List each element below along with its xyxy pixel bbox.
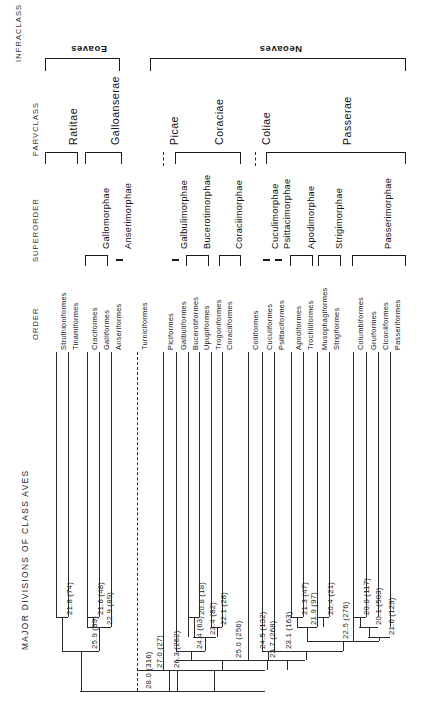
order-branch-turniciformes bbox=[137, 352, 138, 691]
order-label-galliformes: Galliformes bbox=[102, 310, 111, 350]
passerimorphae-node-stem bbox=[379, 637, 380, 641]
order-label-craciformes: Craciformes bbox=[90, 307, 99, 350]
order-label-coliiformes: Coliiformes bbox=[251, 310, 260, 350]
node-value-13: 23.7 (268) bbox=[268, 620, 277, 658]
neoaves-core-node-stem bbox=[222, 660, 223, 670]
node-value-12: 24.5 (132) bbox=[258, 611, 267, 649]
order-branch-anseriformes bbox=[111, 352, 112, 627]
order-label-gruiformes: Gruiformes bbox=[369, 311, 378, 350]
passerae-inner-node-stem bbox=[343, 641, 344, 651]
order-branch-trogoniformes bbox=[211, 352, 212, 627]
turnici-node-stem bbox=[169, 670, 170, 691]
infraclass-bracket-eoaves bbox=[45, 58, 120, 71]
order-label-passeriformes: Passeriformes bbox=[393, 300, 402, 350]
superorder-label-psittacimorphae: Psittacimorphae bbox=[282, 179, 292, 249]
superorder-tick-galbulimorphae bbox=[172, 259, 179, 261]
order-branch-coraciiformes bbox=[222, 352, 223, 627]
neoaves-node-stem bbox=[214, 670, 215, 691]
superorder-label-passerimorphae: Passerimorphae bbox=[383, 178, 393, 249]
order-branch-bucerotiformes bbox=[188, 352, 189, 637]
node-value-18: 22.5 (276) bbox=[341, 601, 350, 639]
column-header-superorder: SUPERORDER bbox=[31, 198, 40, 262]
node-value-21: 21.6 (129) bbox=[387, 597, 396, 635]
coliae-passerae-node-stem bbox=[287, 660, 288, 670]
order-branch-piciformes bbox=[163, 352, 164, 670]
node-value-19: 20.8 (117) bbox=[362, 578, 371, 615]
infraclass-label-neoaves: Neoaves bbox=[259, 44, 302, 55]
order-label-trogoniformes: Trogoniformes bbox=[214, 299, 223, 350]
superorder-label-bucerotimorphae: Bucerotimorphae bbox=[202, 175, 212, 249]
apodimorphae-node-stem bbox=[297, 617, 298, 627]
column-header-order: ORDER bbox=[31, 307, 40, 340]
order-branch-columbiformes bbox=[353, 352, 354, 641]
node-value-11: 25.0 (256) bbox=[234, 620, 243, 658]
galloanserae-node-stem bbox=[99, 627, 100, 651]
phylogenetic-tree-figure: INFRACLASS PARVCLASS SUPERORDER ORDER MA… bbox=[0, 0, 428, 706]
order-label-anseriformes: Anseriformes bbox=[114, 303, 123, 350]
order-label-musophagiformes: Musophagiformes bbox=[320, 288, 329, 351]
cuculi-psittaci-node-stem bbox=[268, 651, 269, 660]
infraclass-bracket-neoaves bbox=[150, 58, 406, 71]
order-branch-galbuliformes bbox=[176, 352, 177, 651]
apodi-musophagi-node-stem bbox=[307, 627, 308, 641]
superorder-bracket-passerimorphae bbox=[352, 255, 406, 266]
node-value-10: 22.1 (28) bbox=[219, 592, 228, 625]
coraciae-node-stem bbox=[205, 637, 206, 651]
parvclass-bracket-galloanserae bbox=[85, 152, 122, 164]
eoaves-node-stem bbox=[81, 651, 82, 691]
superorder-label-galbulimorphae: Galbulimorphae bbox=[179, 180, 189, 249]
order-branch-apodiformes bbox=[291, 352, 292, 617]
picae-node-stem bbox=[177, 670, 178, 691]
order-label-struthioniformes: Struthioniformes bbox=[59, 292, 68, 350]
superorder-bracket-apodimorphae bbox=[290, 255, 313, 266]
parvclass-label-coliae: Coliae bbox=[260, 112, 272, 145]
node-value-17: 20.4 (21) bbox=[326, 582, 335, 615]
node-value-0: 21.8 (74) bbox=[65, 582, 74, 615]
node-value-5: 27.0 (27) bbox=[155, 635, 164, 668]
superorder-label-apodimorphae: Apodimorphae bbox=[306, 186, 316, 249]
order-label-cuculiformes: Cuculiformes bbox=[265, 304, 274, 350]
superorder-label-anserimorphae: Anserimorphae bbox=[123, 183, 133, 249]
node-value-20: 20.1 (503) bbox=[374, 587, 383, 625]
node-value-3: 22.9 (89) bbox=[105, 592, 114, 625]
parvclass-bracket-coraciae bbox=[175, 152, 241, 164]
order-branch-craciformes bbox=[87, 352, 88, 627]
superorder-tick-cuculimorphae bbox=[263, 259, 270, 261]
superorder-bracket-strigimorphae bbox=[318, 255, 341, 266]
ciconii-node-stem bbox=[369, 627, 370, 637]
order-label-upupiformes: Upupiformes bbox=[202, 305, 211, 350]
node-value-7: 24.4 (63) bbox=[195, 616, 204, 649]
infraclass-label-eoaves: Eoaves bbox=[70, 44, 106, 55]
parvclass-bracket-passerae bbox=[266, 152, 406, 164]
superorder-tick-psittacimorphae bbox=[275, 259, 282, 261]
root-node-connector bbox=[80, 691, 265, 692]
parvclass-bracket-picae bbox=[163, 152, 164, 166]
superorder-label-strigimorphae: Strigimorphae bbox=[334, 188, 344, 249]
node-value-16: 21.9 (97) bbox=[309, 592, 318, 625]
order-label-trochiliformes: Trochiliformes bbox=[306, 300, 315, 350]
parvclass-label-coraciae: Coraciae bbox=[213, 99, 225, 145]
node-value-8: 20.8 (18) bbox=[197, 582, 206, 615]
superorder-label-coraciimorphae: Coraciimorphae bbox=[234, 180, 244, 249]
order-branch-psittaciformes bbox=[274, 352, 275, 651]
ratitae-node-stem bbox=[62, 617, 63, 651]
order-label-tinamiformes: Tinamiformes bbox=[71, 303, 80, 351]
order-branch-coliiformes bbox=[248, 352, 249, 660]
parvclass-label-picae: Picae bbox=[168, 116, 180, 145]
order-label-columbiformes: Columbiformes bbox=[356, 297, 365, 350]
order-branch-struthioniformes bbox=[56, 352, 57, 617]
order-branch-tinamiformes bbox=[68, 352, 69, 617]
parvclass-bracket-coliae bbox=[255, 152, 256, 166]
order-branch-strigiformes bbox=[329, 352, 330, 617]
column-header-parvclass: PARVCLASS bbox=[31, 102, 40, 156]
order-label-strigiformes: Strigiformes bbox=[332, 308, 341, 350]
order-label-apodiformes: Apodiformes bbox=[294, 306, 303, 350]
columbi-grui-node-stem bbox=[360, 617, 361, 627]
order-branch-upupiformes bbox=[199, 352, 200, 617]
strigimorphae-node-stem bbox=[323, 617, 324, 627]
parvclass-label-ratitae: Ratitae bbox=[67, 108, 79, 145]
order-branch-trochiliformes bbox=[303, 352, 304, 617]
parvclass-label-passerae: Passerae bbox=[341, 96, 353, 145]
order-label-turniciformes: Turniciformes bbox=[140, 302, 149, 350]
figure-title: MAJOR DIVISIONS OF CLASS AVES bbox=[20, 470, 30, 650]
